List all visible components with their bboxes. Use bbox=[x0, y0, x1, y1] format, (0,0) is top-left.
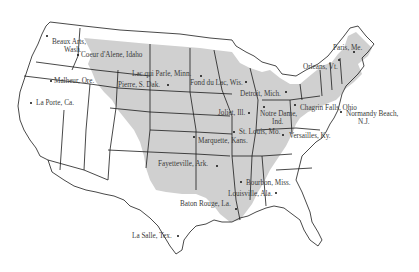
place-label: Fond du Lac, Wis. bbox=[190, 79, 243, 87]
place-label: La Salle, Tex. bbox=[132, 232, 172, 240]
place-label: Malheur, Ore. bbox=[54, 77, 94, 85]
place-label: Louisville, Ala. bbox=[228, 190, 273, 198]
place-label: Fayetteville, Ark. bbox=[158, 160, 208, 168]
place-label: Versailles, Ky. bbox=[289, 132, 331, 140]
place-label: Joliet, Ill. bbox=[218, 109, 245, 117]
place-label: Detroit, Mich. bbox=[240, 90, 281, 98]
place-label: Baton Rouge, La. bbox=[180, 200, 231, 208]
place-label: Notre Dame, bbox=[260, 110, 297, 118]
place-label: Paris, Me. bbox=[333, 44, 362, 52]
place-label: Beaux Arts, bbox=[52, 38, 86, 46]
place-label: St. Louis, Mo. bbox=[239, 128, 280, 136]
place-label: Ind. bbox=[272, 118, 283, 126]
place-label: Lac qui Parle, Minn. bbox=[132, 70, 191, 78]
place-label: Pierre, S. Dak. bbox=[118, 81, 160, 89]
place-label: Coeur d'Alene, Idaho bbox=[81, 51, 142, 59]
place-label: La Porte, Ca. bbox=[36, 99, 74, 107]
place-label: Bourbon, Miss. bbox=[246, 179, 291, 187]
place-label: Normandy Beach, bbox=[346, 110, 398, 118]
place-label: N.J. bbox=[358, 118, 370, 126]
place-label: Orleans, Vt. bbox=[303, 63, 338, 71]
place-label: Wash. bbox=[64, 46, 82, 54]
place-label: Marquette, Kans. bbox=[198, 137, 248, 145]
